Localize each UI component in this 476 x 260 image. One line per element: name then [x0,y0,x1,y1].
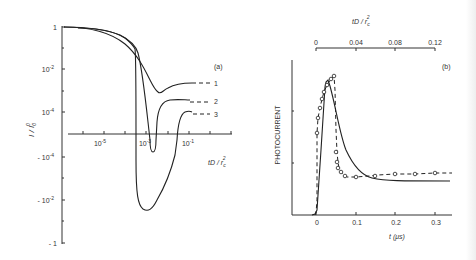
svg-text:- 10-4: - 10-4 [37,152,54,161]
panel-b-dashed-curve [315,76,452,215]
legend-label-1: 1 [214,80,218,87]
svg-text:- 1: - 1 [49,240,57,247]
panel-b-top-label: tD / rc2 [352,14,370,27]
svg-text:10-5: 10-5 [94,138,106,147]
svg-text:0: 0 [314,39,318,46]
panel-a-x-tick-labels: 10-5 10-3 10-1 [94,138,194,147]
svg-text:10-2: 10-2 [42,64,54,73]
panel-b-solid-curve [312,80,450,215]
panel-a: 1 10-2 10-4 - 10-4 - 10-2 - 1 I / I00 10… [25,24,232,247]
panel-b-x-label: t (μs) [389,233,405,241]
panel-a-curve-3 [78,28,192,210]
panel-b-label: (b) [442,63,451,71]
page-edge-shadow [466,0,476,260]
panel-b: 0 0.04 0.08 0.12 tD / rc2 0 0.1 0.2 0.3 … [274,14,452,241]
panel-a-label: (a) [214,63,223,71]
svg-text:10-1: 10-1 [182,138,194,147]
panel-a-y-tick-labels: 1 10-2 10-4 - 10-4 - 10-2 - 1 [37,24,57,247]
svg-text:0.1: 0.1 [352,219,362,226]
panel-a-legend: 1 2 3 [214,80,218,118]
svg-text:1: 1 [53,24,57,31]
panel-a-curve-1 [64,27,192,93]
figure: 1 10-2 10-4 - 10-4 - 10-2 - 1 I / I00 10… [0,0,476,260]
panel-b-top-tick-labels: 0 0.04 0.08 0.12 [314,39,442,46]
svg-text:0: 0 [315,219,319,226]
svg-text:0.04: 0.04 [349,39,363,46]
svg-text:- 10-2: - 10-2 [37,195,54,204]
svg-text:0.3: 0.3 [431,219,441,226]
svg-text:0.2: 0.2 [391,219,401,226]
svg-text:0.08: 0.08 [388,39,402,46]
panel-a-y-label: I / I00 [25,123,37,137]
panel-b-y-label: PHOTOCURRENT [274,105,281,165]
panel-b-x-tick-labels: 0 0.1 0.2 0.3 [315,219,441,226]
panel-a-x-label: tD / rc2 [208,155,226,168]
legend-label-3: 3 [214,111,218,118]
svg-text:10-4: 10-4 [42,107,54,116]
svg-text:0.12: 0.12 [428,39,442,46]
legend-label-2: 2 [214,98,218,105]
panel-b-markers [315,74,437,179]
